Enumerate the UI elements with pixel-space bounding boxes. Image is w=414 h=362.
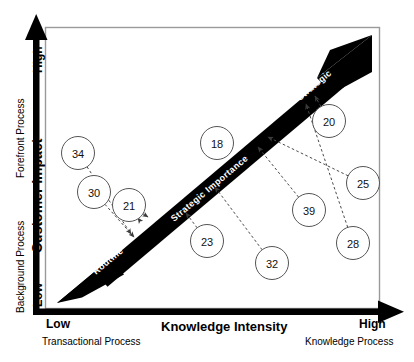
x-axis-high-label: High [359, 318, 386, 330]
process-node[interactable]: 30 [78, 176, 111, 209]
x-axis-low-sub: Transactional Process [42, 337, 141, 347]
node-label: 39 [303, 205, 315, 217]
node-label: 20 [323, 116, 335, 128]
node-label: 21 [123, 200, 135, 212]
diagram-canvas: Routine Strategic Importance Strategic 3… [0, 0, 414, 362]
process-node[interactable]: 23 [191, 225, 224, 258]
x-axis-low-label: Low [46, 318, 70, 330]
x-axis-high-sub: Knowledge Process [305, 337, 393, 347]
x-axis-title: Knowledge Intensity [161, 320, 287, 333]
node-label: 32 [266, 258, 278, 270]
process-node[interactable]: 25 [347, 167, 380, 200]
process-node[interactable]: 34 [62, 137, 95, 170]
y-axis-high-sub: Forefront Process [16, 99, 26, 178]
y-axis-low-label: Low [32, 283, 44, 307]
node-label: 18 [211, 138, 223, 150]
node-label: 30 [88, 187, 100, 199]
node-label: 25 [357, 178, 369, 190]
node-label: 23 [201, 236, 213, 248]
process-node[interactable]: 39 [293, 194, 326, 227]
process-node[interactable]: 28 [337, 227, 370, 260]
matrix-figure: Routine Strategic Importance Strategic 3… [0, 0, 414, 362]
node-label: 34 [72, 148, 84, 160]
node-label: 28 [347, 238, 359, 250]
y-axis-high-label: High [32, 46, 44, 73]
y-axis-low-sub: Background Process [16, 221, 26, 313]
process-node[interactable]: 32 [256, 247, 289, 280]
y-axis-title: Customer Impact [30, 139, 44, 253]
process-node[interactable]: 20 [313, 105, 346, 138]
process-node[interactable]: 21 [113, 189, 146, 222]
process-node[interactable]: 18 [201, 127, 234, 160]
